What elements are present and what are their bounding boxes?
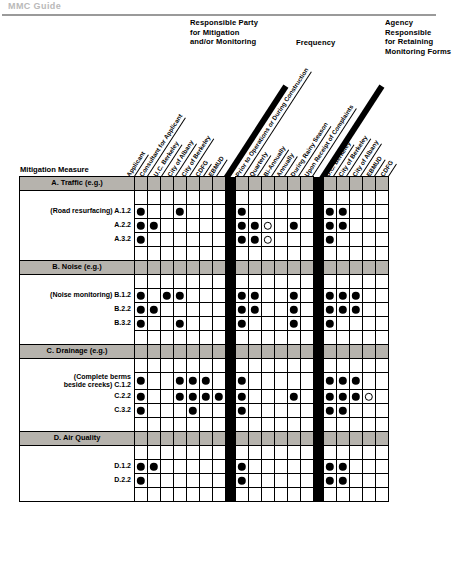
filled-circle-icon — [290, 291, 298, 299]
marker-cell-row-a-3-2-responsible-party-5 — [200, 233, 213, 247]
marker-cell-row-b-1-2-agency-responsible-0 — [324, 289, 337, 303]
section-label: A. Traffic (e.g.) — [20, 177, 135, 191]
measure-label: A.2.2 — [20, 219, 135, 233]
marker-cell-spacer-b-bottom-responsible-party-4 — [187, 331, 200, 345]
marker-cell-row-a-3-2-agency-responsible-4 — [376, 233, 389, 247]
filled-circle-icon — [238, 305, 246, 313]
marker-cell-row-b-1-2-responsible-party-3 — [174, 289, 187, 303]
marker-cell-spacer-a-top-responsible-party-0 — [135, 191, 148, 205]
marker-cell-row-d-1-2-responsible-party-0 — [135, 460, 148, 474]
filled-circle-icon — [326, 305, 334, 313]
filled-circle-icon — [238, 221, 246, 229]
marker-cell-section-noise-responsible-party-2 — [161, 261, 174, 275]
spacer-label — [20, 247, 135, 261]
marker-cell-row-a-3-2-agency-responsible-1 — [337, 233, 350, 247]
marker-cell-row-b-2-2-agency-responsible-1 — [337, 303, 350, 317]
row-b-1-2: (Noise monitoring) B.1.2 — [20, 289, 389, 303]
marker-cell-spacer-a-bottom-agency-responsible-2 — [350, 247, 363, 261]
group-separator-bar-1 — [314, 331, 324, 345]
marker-cell-row-b-3-2-responsible-party-0 — [135, 317, 148, 331]
marker-cell-spacer-b-top-agency-responsible-3 — [363, 275, 376, 289]
row-a-1-2: (Road resurfacing) A.1.2 — [20, 205, 389, 219]
marker-cell-spacer-a-top-agency-responsible-0 — [324, 191, 337, 205]
marker-cell-spacer-c-top-responsible-party-3 — [174, 359, 187, 373]
spacer-label — [20, 191, 135, 205]
marker-cell-row-c-1-2-frequency-2 — [262, 373, 275, 390]
filled-circle-icon — [352, 377, 360, 385]
marker-cell-spacer-c-bottom-agency-responsible-0 — [324, 418, 337, 432]
marker-cell-row-d-2-2-agency-responsible-3 — [363, 474, 376, 488]
marker-cell-spacer-b-bottom-frequency-4 — [288, 331, 301, 345]
marker-cell-section-air-quality-agency-responsible-2 — [350, 432, 363, 446]
marker-cell-section-air-quality-responsible-party-0 — [135, 432, 148, 446]
marker-cell-spacer-b-top-agency-responsible-1 — [337, 275, 350, 289]
marker-cell-spacer-b-bottom-responsible-party-6 — [213, 331, 226, 345]
marker-cell-spacer-c-bottom-agency-responsible-1 — [337, 418, 350, 432]
measure-label: C.3.2 — [20, 404, 135, 418]
caption-frequency: Frequency — [296, 38, 356, 48]
marker-cell-spacer-a-top-responsible-party-3 — [174, 191, 187, 205]
marker-cell-row-d-2-2-agency-responsible-4 — [376, 474, 389, 488]
marker-cell-row-a-1-2-frequency-1 — [249, 205, 262, 219]
filled-circle-icon — [326, 235, 334, 243]
group-separator-bar-1 — [314, 233, 324, 247]
marker-cell-section-drainage-frequency-0 — [236, 345, 249, 359]
marker-cell-row-a-2-2-frequency-4 — [288, 219, 301, 233]
spacer-label — [20, 446, 135, 460]
marker-cell-spacer-a-top-responsible-party-4 — [187, 191, 200, 205]
marker-cell-row-c-3-2-frequency-5 — [301, 404, 314, 418]
filled-circle-icon — [137, 221, 145, 229]
marker-cell-row-c-2-2-frequency-0 — [236, 390, 249, 404]
marker-cell-row-a-2-2-agency-responsible-4 — [376, 219, 389, 233]
marker-cell-spacer-a-top-frequency-0 — [236, 191, 249, 205]
marker-cell-section-drainage-agency-responsible-3 — [363, 345, 376, 359]
marker-cell-row-d-2-2-agency-responsible-1 — [337, 474, 350, 488]
marker-cell-row-c-3-2-agency-responsible-1 — [337, 404, 350, 418]
marker-cell-row-b-2-2-frequency-2 — [262, 303, 275, 317]
marker-cell-row-b-2-2-responsible-party-6 — [213, 303, 226, 317]
marker-cell-row-a-2-2-responsible-party-3 — [174, 219, 187, 233]
filled-circle-icon — [238, 476, 246, 484]
group-separator-bar-1 — [314, 177, 324, 191]
marker-cell-row-b-2-2-agency-responsible-3 — [363, 303, 376, 317]
marker-cell-spacer-c-bottom-responsible-party-0 — [135, 418, 148, 432]
marker-cell-row-b-2-2-responsible-party-2 — [161, 303, 174, 317]
filled-circle-icon — [137, 319, 145, 327]
marker-cell-section-traffic-frequency-4 — [288, 177, 301, 191]
filled-circle-icon — [339, 207, 347, 215]
filled-circle-icon — [238, 319, 246, 327]
marker-cell-section-drainage-responsible-party-3 — [174, 345, 187, 359]
marker-cell-row-d-1-2-responsible-party-4 — [187, 460, 200, 474]
marker-cell-row-b-2-2-frequency-3 — [275, 303, 288, 317]
marker-cell-row-c-2-2-responsible-party-4 — [187, 390, 200, 404]
marker-cell-spacer-a-top-agency-responsible-1 — [337, 191, 350, 205]
marker-cell-section-drainage-agency-responsible-4 — [376, 345, 389, 359]
marker-cell-row-d-2-2-frequency-2 — [262, 474, 275, 488]
marker-cell-spacer-b-top-responsible-party-5 — [200, 275, 213, 289]
marker-cell-row-c-2-2-agency-responsible-4 — [376, 390, 389, 404]
marker-cell-section-air-quality-frequency-5 — [301, 432, 314, 446]
marker-cell-section-traffic-responsible-party-4 — [187, 177, 200, 191]
section-label: B. Noise (e.g.) — [20, 261, 135, 275]
filled-circle-icon — [339, 406, 347, 414]
filled-circle-icon — [176, 207, 184, 215]
marker-cell-spacer-c-bottom-responsible-party-3 — [174, 418, 187, 432]
section-drainage: C. Drainage (e.g.) — [20, 345, 389, 359]
marker-cell-row-b-2-2-responsible-party-5 — [200, 303, 213, 317]
group-separator-bar-1 — [314, 289, 324, 303]
group-separator-bar-1 — [314, 205, 324, 219]
filled-circle-icon — [215, 392, 223, 400]
filled-circle-icon — [150, 305, 158, 313]
marker-cell-row-a-1-2-responsible-party-4 — [187, 205, 200, 219]
marker-cell-row-a-1-2-frequency-5 — [301, 205, 314, 219]
marker-cell-row-c-1-2-frequency-4 — [288, 373, 301, 390]
marker-cell-row-c-2-2-agency-responsible-1 — [337, 390, 350, 404]
marker-cell-spacer-d-bottom-agency-responsible-4 — [376, 488, 389, 502]
marker-cell-spacer-b-bottom-frequency-0 — [236, 331, 249, 345]
marker-cell-section-noise-responsible-party-1 — [148, 261, 161, 275]
section-label: D. Air Quality — [20, 432, 135, 446]
marker-cell-row-c-2-2-agency-responsible-0 — [324, 390, 337, 404]
marker-cell-row-a-3-2-frequency-3 — [275, 233, 288, 247]
marker-cell-row-c-3-2-agency-responsible-3 — [363, 404, 376, 418]
marker-cell-spacer-c-bottom-agency-responsible-2 — [350, 418, 363, 432]
